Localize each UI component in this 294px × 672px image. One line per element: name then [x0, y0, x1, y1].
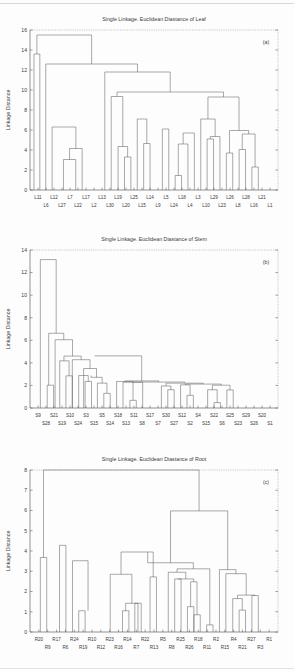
y-tick-label: 0 — [24, 629, 27, 635]
leaf-label: L5 — [163, 195, 169, 200]
plot-axes — [30, 30, 278, 190]
dendrogram-link — [66, 376, 72, 408]
y-tick-label: 8 — [24, 107, 27, 113]
chart-title: Single Linkage. Euclidean Diastance of S… — [101, 236, 207, 242]
dendrogram-link — [34, 54, 40, 190]
leaf-label: R18 — [194, 637, 203, 642]
dendrogram-link — [144, 144, 150, 191]
leaf-label: L22 — [74, 203, 82, 208]
dendrogram-link — [40, 557, 46, 632]
leaf-label: L14 — [146, 195, 154, 200]
leaf-label: L16 — [250, 203, 258, 208]
leaf-label: R27 — [247, 637, 256, 642]
leaf-label: S23 — [234, 421, 243, 426]
dendrogram-link — [124, 157, 130, 190]
leaf-label: L23 — [218, 203, 226, 208]
dendrogram-svg-leaf: Single Linkage. Euclidean Diastance of L… — [0, 6, 294, 224]
leaf-label: S22 — [210, 413, 219, 418]
dendrogram-link — [181, 385, 191, 408]
leaf-label: R4 — [231, 637, 237, 642]
dendrogram-link — [97, 383, 107, 408]
leaf-label: S30 — [162, 413, 171, 418]
dendrogram-svg-stem: Single Linkage. Euclidean Diastance of S… — [0, 228, 294, 442]
leaf-label: S15 — [90, 421, 99, 426]
leaf-label: R7 — [133, 645, 139, 650]
leaf-label: S26 — [250, 421, 259, 426]
dendrogram-link — [226, 574, 246, 632]
leaf-label: L17 — [82, 195, 90, 200]
dendrogram-link — [117, 92, 223, 97]
dendrogram-link — [194, 615, 200, 632]
leaf-label: R15 — [221, 645, 230, 650]
leaf-label: S11 — [130, 413, 138, 418]
leaf-label: S1 — [267, 421, 273, 426]
y-tick-label: 3 — [24, 568, 27, 574]
y-tick-label: 2 — [24, 167, 27, 173]
y-tick-label: 6 — [24, 127, 27, 133]
dendrogram-link — [126, 603, 138, 632]
y-axis-label: Linkage Distance — [5, 531, 11, 572]
dendrogram-link — [219, 570, 236, 632]
dendrogram-link — [226, 153, 232, 190]
dendrogram-link — [210, 137, 220, 191]
leaf-label: R22 — [141, 637, 150, 642]
dendrogram-link — [201, 119, 215, 190]
leaf-label: L25 — [130, 195, 138, 200]
dendrogram-link — [233, 599, 243, 632]
dendrogram-link — [121, 552, 153, 577]
dendrogram-link — [171, 511, 228, 570]
dendrogram-link — [214, 403, 220, 408]
leaf-label: S4 — [195, 413, 201, 418]
panel-tag: (b) — [263, 259, 270, 265]
y-tick-label: 10 — [21, 87, 27, 93]
dendrogram-link — [252, 596, 258, 632]
y-tick-label: 14 — [21, 47, 27, 53]
dendrogram-link — [207, 139, 213, 190]
leaf-label: R8 — [169, 645, 175, 650]
leaf-label: R16 — [114, 645, 123, 650]
dendrogram-panel-stem: Single Linkage. Euclidean Diastance of S… — [0, 228, 294, 442]
y-tick-label: 14 — [21, 247, 27, 253]
leaf-label: R5 — [160, 637, 166, 642]
leaf-label: L20 — [122, 203, 130, 208]
leaf-label: L11 — [34, 195, 42, 200]
y-tick-label: 2 — [24, 382, 27, 388]
leaf-label: L7 — [67, 195, 73, 200]
leaf-label: S25 — [226, 413, 235, 418]
dendrogram-link — [239, 610, 245, 632]
dendrogram-link — [84, 369, 97, 409]
y-tick-label: 8 — [24, 315, 27, 321]
dendrogram-link — [177, 569, 210, 625]
dendrogram-svg-root: Single Linkage. Euclidean Diastance of R… — [0, 444, 294, 668]
chart-title: Single Linkage. Euclidean Diastance of L… — [102, 16, 206, 22]
leaf-label: S19 — [58, 421, 67, 426]
leaf-label: L2 — [91, 203, 97, 208]
dendrogram-link — [60, 361, 69, 408]
leaf-label: L18 — [178, 195, 186, 200]
y-tick-label: 16 — [21, 27, 27, 33]
dendrogram-panel-leaf: Single Linkage. Euclidean Diastance of L… — [0, 6, 294, 224]
dendrogram-link — [252, 167, 258, 190]
dendrogram-link — [137, 119, 147, 190]
leaf-label: S27 — [170, 421, 179, 426]
leaf-label: R9 — [45, 645, 51, 650]
dendrogram-link — [72, 360, 90, 408]
leaf-label: S29 — [242, 413, 251, 418]
leaf-label: L4 — [187, 203, 193, 208]
dendrogram-panel-root: Single Linkage. Euclidean Diastance of R… — [0, 444, 294, 668]
y-tick-label: 6 — [24, 337, 27, 343]
leaf-label: L27 — [58, 203, 66, 208]
y-tick-label: 5 — [24, 528, 27, 534]
dendrogram-link — [178, 144, 188, 190]
dendrogram-link — [43, 470, 199, 557]
leaf-label: R14 — [123, 637, 132, 642]
leaf-label: L15 — [138, 203, 146, 208]
y-tick-label: 4 — [24, 147, 27, 153]
dendrogram-link — [187, 607, 193, 632]
leaf-label: R3 — [257, 645, 263, 650]
dendrogram-link — [227, 390, 233, 408]
leaf-label: R19 — [79, 645, 88, 650]
leaf-label: L13 — [98, 195, 106, 200]
dendrogram-link — [183, 133, 194, 190]
leaf-label: S9 — [35, 413, 41, 418]
